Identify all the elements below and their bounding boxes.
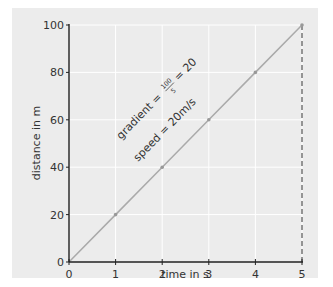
svg-text:1: 1 bbox=[112, 268, 119, 281]
svg-text:0: 0 bbox=[57, 256, 64, 269]
x-axis-label: time in s bbox=[161, 268, 209, 281]
svg-text:= 20: = 20 bbox=[171, 55, 199, 83]
svg-text:40: 40 bbox=[50, 161, 64, 174]
tick-labels: 012345020406080100 bbox=[43, 19, 306, 281]
svg-text:60: 60 bbox=[50, 114, 64, 127]
svg-text:5: 5 bbox=[169, 86, 178, 95]
distance-time-chart: 012345020406080100 time in s distance in… bbox=[0, 0, 333, 287]
svg-text:80: 80 bbox=[50, 66, 64, 79]
svg-text:20: 20 bbox=[50, 209, 64, 222]
svg-text:4: 4 bbox=[252, 268, 259, 281]
svg-text:5: 5 bbox=[299, 268, 306, 281]
svg-text:100: 100 bbox=[43, 19, 64, 32]
y-axis-label: distance in m bbox=[30, 106, 43, 180]
svg-text:0: 0 bbox=[66, 268, 73, 281]
